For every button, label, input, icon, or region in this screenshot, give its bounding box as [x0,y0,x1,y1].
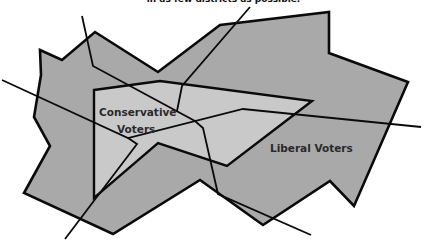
liberal-label: Liberal Voters [270,142,353,154]
gerrymander-diagram: Conservative Voters Liberal Voters [0,0,427,249]
conservative-label-line2: Voters [117,123,155,135]
conservative-label-line1: Conservative [99,106,176,118]
